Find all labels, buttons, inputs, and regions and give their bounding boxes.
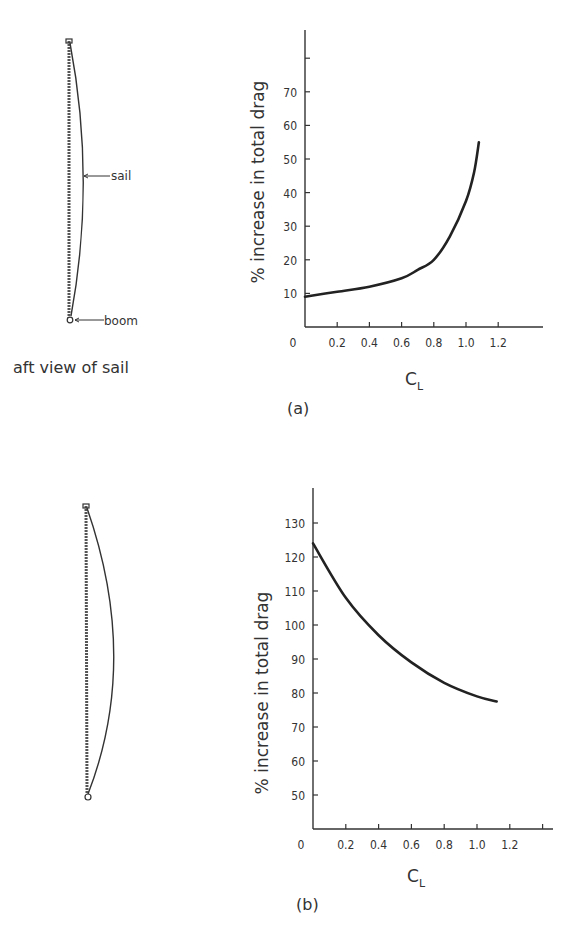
x-tick-label: 0.4	[370, 838, 387, 852]
y-ticks-a: 10203040506070	[283, 58, 310, 301]
x-axis-label-b: CL	[407, 866, 426, 890]
x-tick-label: 0.8	[425, 336, 442, 350]
figure: sail boom aft view of sail 1020304050607…	[0, 0, 573, 938]
x-tick-label: 0	[290, 336, 297, 350]
x-tick-label: 0	[298, 838, 305, 852]
mast-b	[86, 506, 87, 794]
sail-sketch-b	[83, 504, 114, 800]
y-tick-label: 130	[284, 517, 305, 531]
y-tick-label: 20	[283, 254, 297, 268]
y-tick-label: 40	[283, 187, 297, 201]
y-tick-label: 120	[284, 551, 305, 565]
chart-b: 5060708090100110120130 00.20.40.60.81.01…	[252, 488, 553, 914]
y-tick-label: 90	[291, 653, 305, 667]
x-tick-label: 0.4	[361, 336, 378, 350]
y-axis-label-b: % increase in total drag	[252, 592, 272, 795]
sail-sketch-a: sail boom aft view of sail	[13, 39, 138, 377]
x-tick-label: 0.2	[329, 336, 346, 350]
x-ticks-b: 00.20.40.60.81.01.2	[298, 824, 543, 852]
x-tick-label: 0.2	[337, 838, 354, 852]
chart-a: 10203040506070 00.20.40.60.81.01.2 % inc…	[248, 30, 543, 418]
sail-curve-a	[70, 43, 83, 316]
y-tick-label: 60	[291, 755, 305, 769]
y-tick-label: 70	[283, 86, 297, 100]
x-tick-label: 0.8	[436, 838, 453, 852]
x-tick-label: 1.0	[457, 336, 474, 350]
data-line-b	[313, 543, 497, 701]
y-tick-label: 110	[284, 585, 305, 599]
boom-annotation: boom	[104, 314, 138, 328]
y-tick-label: 50	[291, 789, 305, 803]
sail-curve-b	[87, 508, 114, 794]
y-tick-label: 10	[283, 287, 297, 301]
x-ticks-a: 00.20.40.60.81.01.2	[290, 322, 507, 350]
boom-icon	[67, 317, 73, 323]
panel-label-a: (a)	[287, 399, 309, 418]
x-tick-label: 1.2	[501, 838, 518, 852]
y-tick-label: 100	[284, 619, 305, 633]
y-tick-label: 80	[291, 687, 305, 701]
data-line-a	[305, 142, 479, 297]
panel-label-b: (b)	[296, 895, 319, 914]
y-tick-label: 50	[283, 153, 297, 167]
x-tick-label: 1.2	[490, 336, 507, 350]
y-tick-label: 30	[283, 220, 297, 234]
sail-annotation: sail	[111, 169, 131, 183]
x-tick-label: 0.6	[403, 838, 420, 852]
y-tick-label: 70	[291, 721, 305, 735]
sketch-caption: aft view of sail	[13, 358, 129, 377]
x-tick-label: 1.0	[468, 838, 485, 852]
x-axis-label-a: CL	[405, 369, 424, 393]
boom-icon	[85, 794, 91, 800]
y-tick-label: 60	[283, 119, 297, 133]
x-tick-label: 0.6	[393, 336, 410, 350]
y-axis-label-a: % increase in total drag	[248, 81, 268, 284]
